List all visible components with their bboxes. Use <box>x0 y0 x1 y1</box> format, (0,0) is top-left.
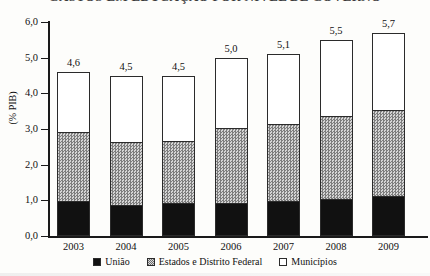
y-tick-label-6-0: 6,0 <box>0 16 38 27</box>
bar-segment-uniao-2008 <box>321 199 352 235</box>
bar-2004[interactable] <box>110 76 143 237</box>
bar-segment-estados-2004 <box>111 142 142 204</box>
legend-item-uniao: União <box>93 256 129 267</box>
x-axis-label-2009: 2009 <box>359 241 419 252</box>
bar-segment-uniao-2007 <box>268 201 299 235</box>
bar-segment-estados-2007 <box>268 124 299 201</box>
bar-segment-estados-2006 <box>216 128 247 203</box>
legend-item-municipios: Municípios <box>279 256 337 267</box>
bar-segment-municipios-2004 <box>111 75 142 143</box>
gray-hatched-square-icon <box>147 258 155 266</box>
legend-label-estados: Estados e Distrito Federal <box>159 256 263 267</box>
y-tick-label-3-0: 3,0 <box>0 123 38 134</box>
chart-title-text: GASTOS EM EDUCAÇÃO POR NÍVEL DE GOVERNO <box>0 0 430 5</box>
y-tick-label-2-0: 2,0 <box>0 159 38 170</box>
y-tick-label-1-0: 1,0 <box>0 194 38 205</box>
bar-segment-municipios-2006 <box>216 57 247 128</box>
y-tick-0-0 <box>41 236 48 237</box>
bar-segment-estados-2005 <box>163 141 194 203</box>
y-tick-1-0 <box>41 200 48 201</box>
x-axis-label-2005: 2005 <box>149 241 209 252</box>
chart-title-cropped: GASTOS EM EDUCAÇÃO POR NÍVEL DE GOVERNO <box>0 0 430 7</box>
bar-value-label-2003: 4,6 <box>67 57 80 68</box>
white-square-icon <box>279 258 287 266</box>
bar-2005[interactable] <box>162 76 195 237</box>
bar-value-label-2005: 4,5 <box>172 61 185 72</box>
bar-segment-municipios-2005 <box>163 75 194 141</box>
bar-value-label-2009: 5,7 <box>382 18 395 29</box>
x-axis-label-2006: 2006 <box>201 241 261 252</box>
bar-segment-municipios-2008 <box>321 39 352 116</box>
black-square-icon <box>93 258 101 266</box>
bar-segment-municipios-2007 <box>268 53 299 124</box>
y-tick-3-0 <box>41 129 48 130</box>
bar-value-label-2006: 5,0 <box>224 43 237 54</box>
bars-layer: 4,64,54,55,05,15,55,7 <box>48 22 426 236</box>
y-tick-2-0 <box>41 165 48 166</box>
bar-value-label-2008: 5,5 <box>329 25 342 36</box>
bar-segment-municipios-2003 <box>58 71 89 132</box>
x-axis-line <box>48 236 428 238</box>
x-axis-label-2004: 2004 <box>96 241 156 252</box>
legend-label-uniao: União <box>105 256 129 267</box>
bar-2007[interactable] <box>267 54 300 236</box>
bar-segment-estados-2008 <box>321 116 352 200</box>
legend-item-estados: Estados e Distrito Federal <box>147 256 263 267</box>
chart-container: GASTOS EM EDUCAÇÃO POR NÍVEL DE GOVERNO … <box>0 0 430 276</box>
legend-label-municipios: Municípios <box>291 256 337 267</box>
bar-2003[interactable] <box>57 72 90 236</box>
bar-segment-estados-2003 <box>58 132 89 202</box>
y-tick-4-0 <box>41 93 48 94</box>
bar-segment-uniao-2003 <box>58 201 89 235</box>
bar-value-label-2007: 5,1 <box>277 39 290 50</box>
y-tick-label-4-0: 4,0 <box>0 87 38 98</box>
x-axis-label-2008: 2008 <box>306 241 366 252</box>
bar-2008[interactable] <box>320 40 353 236</box>
y-tick-label-0-0: 0,0 <box>0 230 38 241</box>
bar-value-label-2004: 4,5 <box>119 61 132 72</box>
bar-2006[interactable] <box>215 58 248 236</box>
chart-legend: União Estados e Distrito Federal Municíp… <box>0 256 430 267</box>
y-tick-6-0 <box>41 22 48 23</box>
x-axis-label-2007: 2007 <box>254 241 314 252</box>
bar-segment-uniao-2006 <box>216 203 247 235</box>
bar-segment-uniao-2004 <box>111 205 142 235</box>
bar-segment-estados-2009 <box>373 110 404 196</box>
bar-2009[interactable] <box>372 33 405 236</box>
bar-segment-uniao-2009 <box>373 196 404 235</box>
bar-segment-uniao-2005 <box>163 203 194 235</box>
y-tick-5-0 <box>41 58 48 59</box>
y-tick-label-5-0: 5,0 <box>0 52 38 63</box>
bar-segment-municipios-2009 <box>373 32 404 110</box>
x-axis-label-2003: 2003 <box>44 241 104 252</box>
